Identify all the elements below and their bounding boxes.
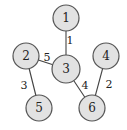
weighted-graph-diagram: 15342123456 bbox=[0, 0, 127, 130]
edge-weight-label: 1 bbox=[67, 34, 74, 47]
node-5: 5 bbox=[26, 95, 52, 121]
edge-weight-label: 5 bbox=[44, 51, 51, 64]
node-2: 2 bbox=[13, 43, 39, 69]
node-1: 1 bbox=[53, 5, 79, 31]
node-label: 4 bbox=[102, 49, 110, 63]
graph-canvas: 15342123456 bbox=[0, 0, 127, 130]
node-6: 6 bbox=[79, 95, 105, 121]
node-label: 2 bbox=[22, 49, 30, 63]
edge-weight-label: 4 bbox=[82, 79, 89, 92]
node-4: 4 bbox=[93, 43, 119, 69]
edge-weight-label: 3 bbox=[21, 79, 28, 92]
edge-weight-label: 2 bbox=[106, 78, 113, 91]
node-3: 3 bbox=[52, 55, 80, 83]
node-label: 1 bbox=[62, 11, 70, 25]
node-label: 6 bbox=[88, 101, 96, 115]
node-label: 5 bbox=[35, 101, 43, 115]
node-label: 3 bbox=[62, 62, 70, 76]
